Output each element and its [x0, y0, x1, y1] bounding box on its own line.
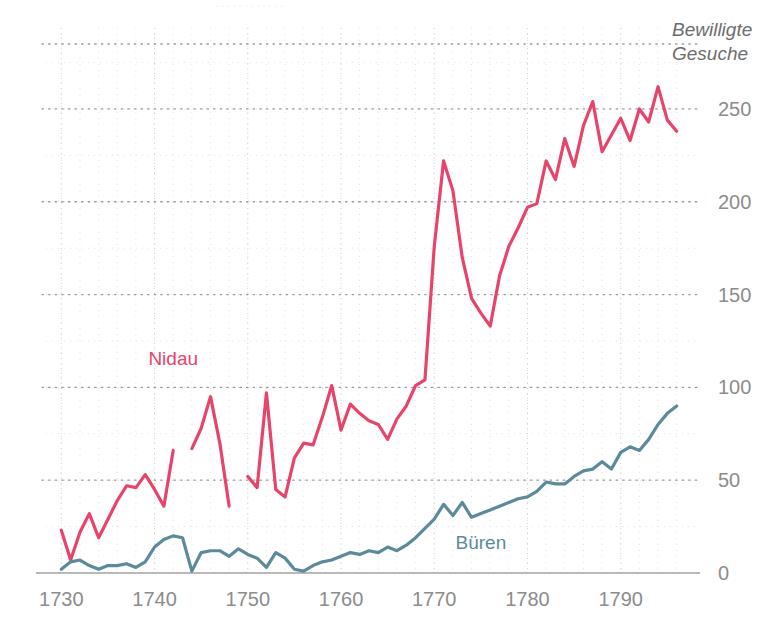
x-tick-1790: 1790 — [598, 588, 643, 610]
series-label-bueren: Büren — [456, 532, 507, 553]
y-tick-100: 100 — [718, 376, 751, 398]
gridlines-minor-vertical — [61, 28, 676, 573]
x-tick-1750: 1750 — [226, 588, 271, 610]
series-label-nidau: Nidau — [148, 348, 198, 369]
series-line-nidau — [61, 87, 676, 560]
series-annotations: NidauBüren — [148, 348, 506, 553]
chart-root: 050100150200250 173017401750176017701780… — [0, 0, 777, 633]
x-tick-1770: 1770 — [412, 588, 457, 610]
x-tick-1780: 1780 — [505, 588, 550, 610]
top-cropped-text: ............ — [215, 0, 286, 10]
y-axis-tick-labels: 050100150200250 — [718, 98, 751, 584]
x-tick-1740: 1740 — [132, 588, 177, 610]
x-axis-tick-labels: 1730174017501760177017801790 — [39, 588, 643, 610]
y-tick-150: 150 — [718, 284, 751, 306]
series-lines — [61, 87, 676, 571]
x-tick-1760: 1760 — [319, 588, 364, 610]
y-axis-title-line2: Gesuche — [672, 43, 748, 64]
y-tick-0: 0 — [718, 562, 729, 584]
y-axis-title-line1: Bewilligte — [672, 19, 752, 40]
y-tick-200: 200 — [718, 191, 751, 213]
y-tick-250: 250 — [718, 98, 751, 120]
y-tick-50: 50 — [718, 469, 740, 491]
line-chart: 050100150200250 173017401750176017701780… — [0, 0, 777, 633]
x-tick-1730: 1730 — [39, 588, 84, 610]
